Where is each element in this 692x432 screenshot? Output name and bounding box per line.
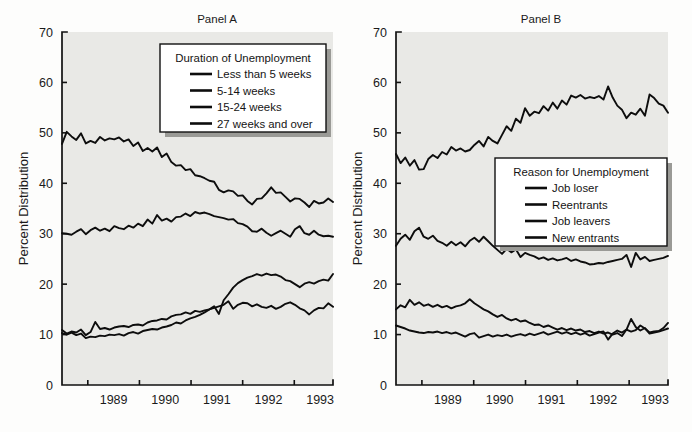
x-tick-label: 1989 bbox=[434, 393, 462, 407]
y-tick-label: 0 bbox=[46, 379, 53, 393]
x-tick-label: 1993 bbox=[306, 393, 334, 407]
y-tick-label: 50 bbox=[39, 126, 53, 140]
y-axis-title: Percent Distribution bbox=[16, 152, 31, 265]
x-tick-label: 1993 bbox=[641, 393, 669, 407]
y-tick-label: 40 bbox=[373, 177, 387, 191]
y-tick-label: 70 bbox=[373, 26, 387, 40]
x-tick-label: 1991 bbox=[203, 393, 231, 407]
x-tick-label: 1990 bbox=[486, 393, 514, 407]
legend-label-0: Less than 5 weeks bbox=[217, 68, 312, 80]
y-tick-label: 60 bbox=[373, 76, 387, 90]
y-tick-label: 20 bbox=[373, 278, 387, 292]
legend-title: Reason for Unemployment bbox=[513, 166, 649, 178]
y-tick-label: 60 bbox=[39, 76, 53, 90]
y-tick-label: 40 bbox=[39, 177, 53, 191]
y-tick-label: 70 bbox=[39, 26, 53, 40]
legend-label-2: 15-24 weeks bbox=[217, 101, 282, 113]
legend-label-2: Job leavers bbox=[552, 215, 611, 227]
y-tick-label: 20 bbox=[39, 278, 53, 292]
figure-root: Panel A010203040506070198919901991199219… bbox=[0, 0, 692, 432]
x-tick-label: 1990 bbox=[151, 393, 179, 407]
legend-label-3: 27 weeks and over bbox=[217, 118, 313, 130]
unemployment-distribution-figure: Panel A010203040506070198919901991199219… bbox=[0, 0, 692, 432]
panel-a: Panel A010203040506070198919901991199219… bbox=[16, 13, 334, 407]
y-tick-label: 50 bbox=[373, 126, 387, 140]
panel-b: Panel B010203040506070198919901991199219… bbox=[350, 13, 672, 407]
y-axis-title: Percent Distribution bbox=[350, 152, 365, 265]
legend-label-0: Job loser bbox=[552, 182, 598, 194]
panel-title: Panel A bbox=[197, 13, 237, 25]
x-tick-label: 1989 bbox=[100, 393, 128, 407]
x-tick-label: 1992 bbox=[255, 393, 283, 407]
legend-label-1: 5-14 weeks bbox=[217, 85, 276, 97]
legend-title: Duration of Unemployment bbox=[175, 52, 311, 64]
legend-label-3: New entrants bbox=[552, 232, 619, 244]
x-tick-label: 1992 bbox=[589, 393, 617, 407]
y-tick-label: 0 bbox=[380, 379, 387, 393]
y-tick-label: 10 bbox=[373, 328, 387, 342]
x-tick-label: 1991 bbox=[538, 393, 566, 407]
y-tick-label: 10 bbox=[39, 328, 53, 342]
legend-label-1: Reentrants bbox=[552, 199, 608, 211]
y-tick-label: 30 bbox=[39, 227, 53, 241]
panel-title: Panel B bbox=[521, 13, 562, 25]
y-tick-label: 30 bbox=[373, 227, 387, 241]
